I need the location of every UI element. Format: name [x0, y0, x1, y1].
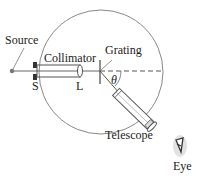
telescope [112, 88, 158, 133]
label-collimator: Collimator [44, 51, 96, 65]
label-eye: Eye [173, 159, 192, 173]
label-grating: Grating [105, 43, 142, 57]
label-telescope: Telescope [105, 128, 153, 142]
eye-icon [173, 135, 187, 157]
slit-upper [33, 62, 37, 68]
label-slit: S [32, 79, 39, 93]
source-point [10, 69, 14, 73]
collimator-lens [78, 65, 83, 77]
label-lens: L [76, 79, 83, 93]
source-leader [13, 48, 24, 69]
label-source: Source [5, 33, 38, 47]
spectrometer-diagram: Source Collimator Grating S L θ Telescop… [0, 0, 201, 176]
grating-leader [101, 60, 112, 70]
label-theta: θ [111, 73, 117, 87]
